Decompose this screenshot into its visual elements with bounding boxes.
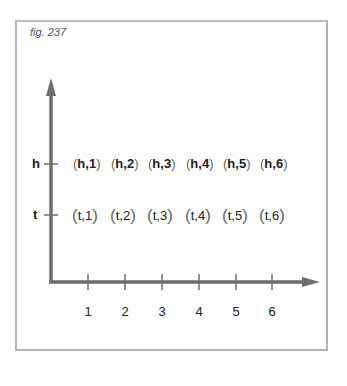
outcome-h-6: (h,6) bbox=[260, 156, 287, 171]
axes bbox=[0, 0, 347, 386]
x-label-4: 4 bbox=[189, 304, 209, 319]
x-label-5: 5 bbox=[226, 304, 246, 319]
outcome-text: h,3 bbox=[152, 156, 171, 171]
outcome-h-5: (h,5) bbox=[223, 156, 250, 171]
x-label-6: 6 bbox=[262, 304, 282, 319]
outcome-text: t,5 bbox=[228, 208, 242, 223]
outcome-t-6: (t,6) bbox=[259, 205, 285, 225]
outcome-t-3: (t,3) bbox=[147, 205, 173, 225]
outcome-text: t,1 bbox=[78, 208, 92, 223]
outcome-text: h,4 bbox=[190, 156, 209, 171]
x-axis-arrow-icon bbox=[302, 277, 320, 287]
outcome-text: t,3 bbox=[153, 208, 167, 223]
outcome-h-4: (h,4) bbox=[186, 156, 213, 171]
outcome-text: t,4 bbox=[191, 208, 205, 223]
outcome-text: t,6 bbox=[265, 208, 279, 223]
x-label-1: 1 bbox=[78, 304, 98, 319]
x-label-3: 3 bbox=[152, 304, 172, 319]
outcome-text: h,2 bbox=[115, 156, 134, 171]
outcome-t-4: (t,4) bbox=[185, 205, 211, 225]
x-label-2: 2 bbox=[115, 304, 135, 319]
outcome-h-3: (h,3) bbox=[148, 156, 175, 171]
outcome-text: h,1 bbox=[77, 156, 96, 171]
outcome-t-5: (t,5) bbox=[222, 205, 248, 225]
outcome-t-2: (t,2) bbox=[110, 205, 136, 225]
y-axis-arrow-icon bbox=[46, 78, 56, 96]
y-label-t: t bbox=[33, 207, 37, 222]
outcome-text: t,2 bbox=[116, 208, 130, 223]
outcome-h-2: (h,2) bbox=[111, 156, 138, 171]
outcome-t-1: (t,1) bbox=[72, 205, 98, 225]
outcome-text: h,6 bbox=[264, 156, 283, 171]
outcome-h-1: (h,1) bbox=[73, 156, 100, 171]
outcome-text: h,5 bbox=[227, 156, 246, 171]
y-label-h: h bbox=[32, 156, 40, 171]
